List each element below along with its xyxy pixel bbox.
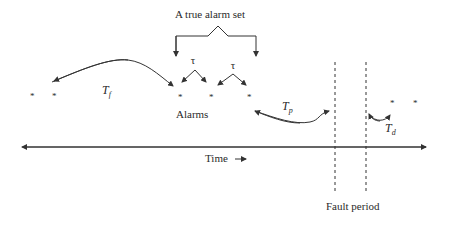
tp-arrow-left (255, 111, 300, 123)
time-label: Time (205, 152, 228, 164)
tau-label-2: τ (231, 59, 236, 71)
alarm-timeline-diagram: A true alarm set τ τ Tf * * * * * * * Al… (0, 0, 450, 225)
tau-arrow-2a (218, 74, 233, 85)
fault-period-label: Fault period (326, 200, 380, 212)
true-alarm-set-label: A true alarm set (175, 8, 245, 20)
tau-label-1: τ (191, 54, 196, 66)
alarm-marker: * (178, 92, 183, 102)
alarm-marker: * (247, 92, 252, 102)
tf-arrow-left (54, 60, 128, 81)
td-label: Td (385, 121, 397, 137)
tau-arrow-1b (195, 70, 206, 82)
tf-arrow (52, 60, 173, 86)
alarms-label: Alarms (176, 108, 208, 120)
tau-arrow-2b (233, 74, 246, 85)
alarm-marker: * (52, 91, 57, 101)
true-alarm-set-brace (176, 26, 256, 56)
alarm-marker: * (413, 98, 418, 108)
alarm-marker: * (390, 98, 395, 108)
tf-label: Tf (102, 83, 113, 99)
tau-arrow-1a (182, 70, 195, 82)
alarm-marker: * (209, 92, 214, 102)
alarm-marker: * (30, 91, 35, 101)
tp-label: Tp (282, 99, 293, 115)
